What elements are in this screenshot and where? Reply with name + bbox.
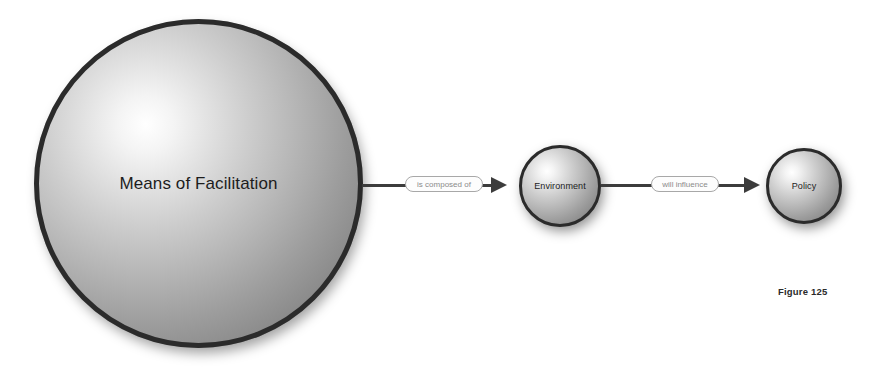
diagram-canvas: Means of Facilitation is composed of Env… — [0, 0, 889, 373]
node-policy[interactable]: Policy — [766, 148, 842, 224]
link-label-is-composed-of[interactable]: is composed of — [405, 176, 483, 192]
node-label-environment: Environment — [534, 181, 586, 191]
node-label-means-of-facilitation: Means of Facilitation — [119, 174, 277, 194]
arrowhead-icon-means-to-environment — [491, 177, 507, 193]
link-label-will-influence[interactable]: will influence — [651, 176, 719, 192]
node-means-of-facilitation[interactable]: Means of Facilitation — [34, 19, 363, 348]
figure-caption: Figure 125 — [778, 286, 828, 297]
node-label-policy: Policy — [792, 181, 817, 191]
node-environment[interactable]: Environment — [519, 145, 601, 227]
arrowhead-icon-environment-to-policy — [744, 177, 760, 193]
